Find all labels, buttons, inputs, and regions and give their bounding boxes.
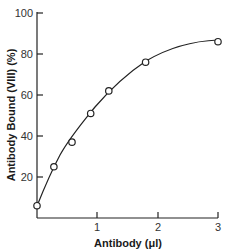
data-point	[215, 39, 221, 45]
y-tick-60: 60	[21, 89, 33, 101]
y-tick-20: 20	[21, 171, 33, 183]
y-axis-title: Antibody Bound (VIII) (%)	[5, 48, 17, 181]
data-point	[51, 164, 57, 170]
x-tick-3: 3	[215, 221, 221, 233]
x-tick-labels: 1 2 3	[94, 221, 221, 233]
y-tick-80: 80	[21, 48, 33, 60]
data-point	[87, 110, 93, 116]
fit-curve	[37, 40, 218, 206]
data-point	[34, 203, 40, 209]
data-point	[142, 59, 148, 65]
data-point	[106, 88, 112, 94]
x-tick-1: 1	[94, 221, 100, 233]
x-axis-title: Antibody (μl)	[94, 237, 162, 249]
data-points	[34, 39, 221, 209]
y-tick-labels: 100 80 60 40 20	[15, 7, 33, 183]
data-point	[69, 139, 75, 145]
y-tick-40: 40	[21, 130, 33, 142]
chart: 100 80 60 40 20 1 2 3 Antibody (μl) Anti…	[0, 0, 227, 251]
y-tick-100: 100	[15, 7, 33, 19]
x-tick-2: 2	[155, 221, 161, 233]
